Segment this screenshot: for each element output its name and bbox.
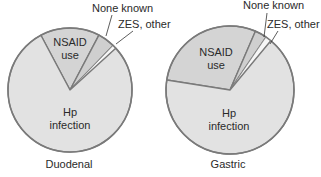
duodenal-none-known-leader [106,15,112,36]
duodenal-none-known-label: None known [92,2,153,14]
duodenal-hp-label-line2: infection [50,119,91,131]
gastric-none-known-label: None known [243,0,304,11]
gastric-nsaid-label-line2: use [207,59,225,71]
gastric-hp-label-line1: Hp [222,107,236,119]
gastric-nsaid-label-line1: NSAID [199,46,233,58]
gastric-caption: Gastric [211,158,246,170]
duodenal-hp-label-line1: Hp [63,106,77,118]
duodenal-nsaid-label-line1: NSAID [53,36,87,48]
duodenal-nsaid-label-line2: use [61,49,79,61]
peptic-ulcer-cause-pies: NSAID use Hp infection None known ZES, o… [0,0,321,177]
duodenal-zes-leader [116,31,133,44]
duodenal-zes-label: ZES, other [118,18,171,30]
duodenal-caption: Duodenal [45,158,92,170]
gastric-zes-label: ZES, other [267,18,320,30]
gastric-zes-leader [270,31,278,44]
gastric-hp-label-line2: infection [209,120,250,132]
